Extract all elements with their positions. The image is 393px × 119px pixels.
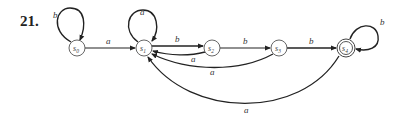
edge-label: b: [175, 34, 180, 44]
edge-label: a: [244, 105, 249, 115]
edge-s3-s1: a: [152, 54, 273, 77]
edge-s2-s3: b: [220, 36, 270, 48]
edge-label: a: [106, 36, 111, 46]
edge-s0-s0: b: [53, 8, 84, 42]
state-diagram: b a a b a b a b b a: [0, 0, 393, 119]
state-s2: s2: [204, 40, 220, 56]
edge-s3-s4: b: [287, 36, 336, 48]
edge-label: b: [380, 17, 385, 27]
edge-s4-s4: b: [350, 17, 385, 50]
edge-label: b: [243, 36, 248, 46]
state-s3: s3: [271, 40, 287, 56]
edge-s0-s1: a: [85, 36, 135, 48]
edge-label: a: [210, 67, 215, 77]
edge-label: b: [53, 10, 58, 20]
edge-label: a: [191, 54, 196, 64]
edge-label: b: [309, 36, 314, 46]
edge-label: a: [140, 7, 145, 17]
state-s0: s0: [69, 40, 85, 56]
edge-s1-s2: b: [152, 34, 203, 46]
edge-s1-s1: a: [129, 7, 157, 42]
state-s4-accepting: s4: [337, 39, 355, 57]
state-s1: s1: [136, 40, 152, 56]
